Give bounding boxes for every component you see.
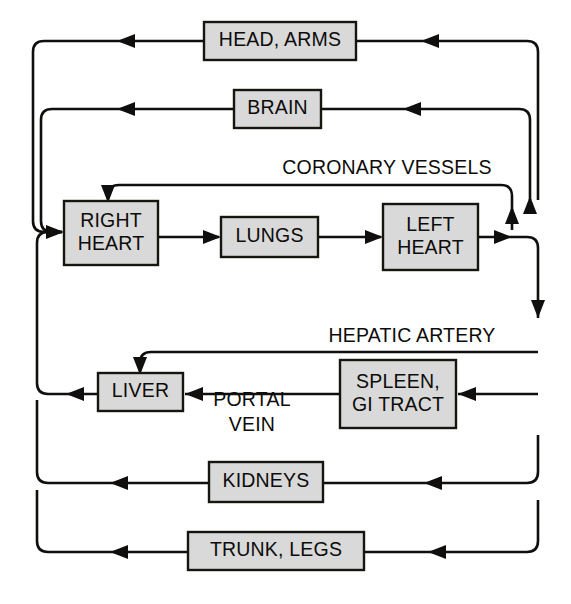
arrow-right-heart-to-lungs <box>203 230 221 244</box>
arrow-brain-return <box>117 102 135 116</box>
organ-node-label-liver: LIVER <box>112 379 169 401</box>
organ-node-label-left_heart: LEFT <box>406 213 454 235</box>
arrow-portal-vein-into-liver <box>185 387 203 401</box>
flow-diagram-canvas: HEAD, ARMSBRAINRIGHTHEARTLUNGSLEFTHEARTL… <box>0 0 571 604</box>
arrow-head-arms-supply <box>421 34 439 48</box>
organ-node-trunk_legs[interactable]: TRUNK, LEGS <box>188 532 364 570</box>
arrow-coronary-branch-up <box>505 206 519 224</box>
arrow-trunk-legs-return <box>110 545 128 559</box>
arrow-spleen-supply <box>458 387 476 401</box>
arrow-liver-outflow <box>66 387 84 401</box>
organ-node-kidneys[interactable]: KIDNEYS <box>209 462 323 502</box>
organ-node-brain[interactable]: BRAIN <box>234 90 321 128</box>
vessel-label-text-hepatic_artery: HEPATIC ARTERY <box>328 324 495 346</box>
vessel-label-text-portal_vein: VEIN <box>229 413 275 435</box>
arrow-kidneys-supply <box>424 476 442 490</box>
organ-node-label-kidneys: KIDNEYS <box>222 469 309 491</box>
vessel-label-text-portal_vein: PORTAL <box>213 388 290 410</box>
organ-node-label-right_heart: HEART <box>78 232 145 254</box>
kidneys-return-path <box>37 400 209 483</box>
vessel-label-portal_vein: PORTALVEIN <box>213 388 290 435</box>
organ-node-label-left_heart: HEART <box>397 236 464 258</box>
vessel-label-coronary: CORONARY VESSELS <box>282 156 491 178</box>
organ-node-right_heart[interactable]: RIGHTHEART <box>64 201 158 265</box>
vessel-label-hepatic_artery: HEPATIC ARTERY <box>328 324 495 346</box>
vessel-label-text-coronary: CORONARY VESSELS <box>282 156 491 178</box>
arrow-venous-return-into-right-heart <box>46 225 64 239</box>
organ-node-liver[interactable]: LIVER <box>98 373 183 411</box>
trunk-legs-supply-path <box>364 500 538 552</box>
organ-node-label-right_heart: RIGHT <box>80 209 142 231</box>
organ-node-label-spleen_gi: SPLEEN, <box>356 370 440 392</box>
organ-node-label-head_arms: HEAD, ARMS <box>219 28 341 50</box>
organ-node-label-trunk_legs: TRUNK, LEGS <box>210 538 342 560</box>
trunk-legs-return-path <box>37 490 188 552</box>
organ-node-head_arms[interactable]: HEAD, ARMS <box>204 22 356 60</box>
arrow-trunk-legs-supply <box>428 545 446 559</box>
arrow-lungs-to-left-heart <box>365 230 383 244</box>
organ-node-label-lungs: LUNGS <box>235 224 303 246</box>
organ-node-left_heart[interactable]: LEFTHEART <box>383 204 478 270</box>
arrow-left-heart-outflow <box>494 230 512 244</box>
kidneys-supply-path <box>323 435 538 483</box>
circulation-diagram: HEAD, ARMSBRAINRIGHTHEARTLUNGSLEFTHEARTL… <box>0 0 571 604</box>
arrow-aorta-upward <box>523 196 537 214</box>
arrow-aorta-downward <box>531 300 545 318</box>
organ-node-lungs[interactable]: LUNGS <box>221 217 318 257</box>
organ-node-spleen_gi[interactable]: SPLEEN,GI TRACT <box>340 360 456 428</box>
organ-node-label-spleen_gi: GI TRACT <box>352 393 444 415</box>
brain-supply-path <box>321 109 530 200</box>
left-heart-outflow-path <box>478 237 538 318</box>
organ-node-label-brain: BRAIN <box>247 96 308 118</box>
arrow-brain-supply <box>403 102 421 116</box>
arrow-kidneys-return <box>110 476 128 490</box>
arrow-head-arms-return <box>117 34 135 48</box>
